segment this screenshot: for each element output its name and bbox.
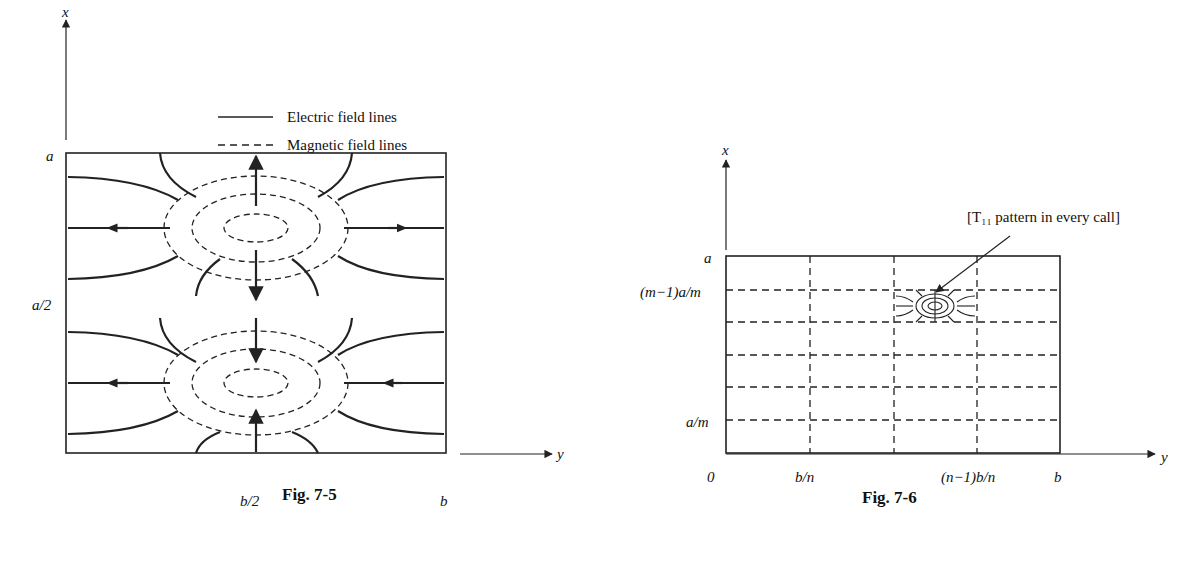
annotation-t11: [T₁₁ pattern in every call] xyxy=(967,209,1120,225)
tick-a: a xyxy=(46,148,54,164)
upper-field-pattern xyxy=(68,153,444,300)
tick-a-half: a/2 xyxy=(32,297,52,313)
tick-b-2: b xyxy=(1054,469,1062,485)
fig-7-5: x y a a/2 b/2 b Electric field lines Mag… xyxy=(32,4,564,509)
y-axis-label: y xyxy=(555,446,564,462)
tick-n-minus-1: (n−1)b/n xyxy=(941,469,995,486)
tick-b-half: b/2 xyxy=(240,493,260,509)
legend-magnetic: Magnetic field lines xyxy=(287,137,407,153)
legend-electric: Electric field lines xyxy=(287,109,397,125)
figure-canvas: x y a a/2 b/2 b Electric field lines Mag… xyxy=(0,0,1198,574)
x-axis-label: x xyxy=(61,4,69,20)
caption-fig-7-5: Fig. 7-5 xyxy=(282,485,337,504)
fig-7-6: x y a (m−1)a/m a/m 0 b/n (n−1)b/n b xyxy=(640,142,1168,507)
lower-field-pattern xyxy=(68,318,444,453)
tick-b-over-n: b/n xyxy=(795,469,814,485)
annotation-arrow xyxy=(936,236,1010,292)
x-axis-label-2: x xyxy=(721,142,729,158)
tick-zero: 0 xyxy=(707,469,715,485)
y-axis-label-2: y xyxy=(1159,449,1168,465)
caption-fig-7-6: Fig. 7-6 xyxy=(862,488,917,507)
tick-b: b xyxy=(440,493,448,509)
tick-a-2: a xyxy=(704,250,712,266)
tick-m-minus-1: (m−1)a/m xyxy=(640,284,701,301)
t11-pattern xyxy=(896,290,975,322)
tick-a-over-m: a/m xyxy=(686,414,709,430)
